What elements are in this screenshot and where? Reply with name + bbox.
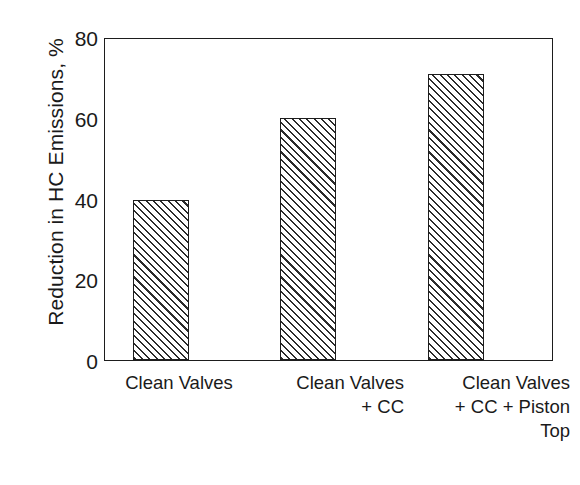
bar-clean-valves-cc-piston-top xyxy=(428,74,484,360)
bar-clean-valves-cc xyxy=(280,118,336,360)
y-tick-label-60: 60 xyxy=(52,109,98,130)
bar-clean-valves xyxy=(133,200,189,360)
x-axis-category-labels: Clean Valves Clean Valves + CC Clean Val… xyxy=(0,371,580,481)
x-label-clean-valves-cc-piston-top: Clean Valves + CC + Piston Top xyxy=(400,371,570,443)
bars-layer xyxy=(105,39,552,360)
y-tick-label-80: 80 xyxy=(52,28,98,49)
x-label-clean-valves-cc: Clean Valves + CC xyxy=(246,371,404,419)
y-tick-label-40: 40 xyxy=(52,190,98,211)
y-tick-label-20: 20 xyxy=(52,270,98,291)
bar-chart-figure: Reduction in HC Emissions, % 80 60 40 20… xyxy=(0,0,580,485)
y-tick-label-0: 0 xyxy=(52,351,98,372)
x-label-clean-valves: Clean Valves xyxy=(104,371,254,395)
plot-area xyxy=(104,38,553,361)
